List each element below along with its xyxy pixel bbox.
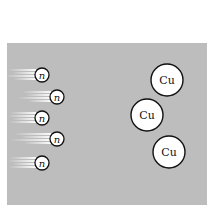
motion-trail bbox=[10, 133, 51, 144]
neutron-5: n bbox=[8, 156, 49, 170]
motion-trail bbox=[8, 157, 36, 168]
neutron-label: n bbox=[54, 134, 60, 145]
motion-trail bbox=[8, 112, 36, 123]
copper-label: Cu bbox=[139, 109, 155, 122]
neutron-1: n bbox=[6, 68, 49, 82]
neutron-label: n bbox=[39, 158, 45, 169]
copper-atom-3: Cu bbox=[153, 136, 185, 168]
copper-atom-2: Cu bbox=[131, 99, 163, 131]
motion-trail bbox=[18, 91, 51, 102]
neutron-label: n bbox=[39, 113, 45, 124]
neutron-label: n bbox=[54, 92, 60, 103]
copper-atom-1: Cu bbox=[151, 64, 183, 96]
copper-label: Cu bbox=[161, 146, 177, 159]
neutron-copper-diagram: n n n n bbox=[0, 0, 217, 213]
motion-trail bbox=[6, 69, 36, 80]
neutron-label: n bbox=[39, 70, 45, 81]
neutron-4: n bbox=[10, 132, 64, 146]
neutron-2: n bbox=[18, 90, 64, 104]
copper-label: Cu bbox=[159, 74, 175, 87]
neutron-3: n bbox=[8, 111, 49, 125]
